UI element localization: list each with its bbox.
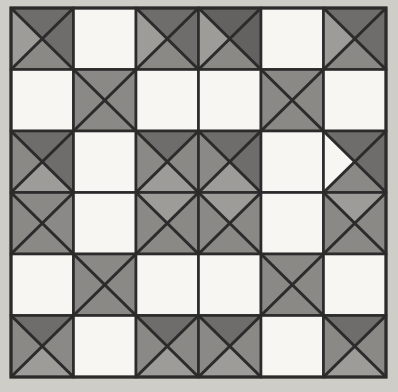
- x-block-cell: [74, 254, 137, 316]
- x-block-cell: [136, 193, 199, 255]
- quilt-grid-svg: [0, 0, 398, 392]
- plain-block-fill: [136, 70, 199, 132]
- x-block-cell: [324, 316, 387, 378]
- plain-block-cell: [261, 193, 324, 255]
- cells-layer: [11, 8, 386, 377]
- quilt-pattern-figure: [0, 0, 398, 392]
- x-block-cell: [74, 70, 137, 132]
- x-block-cell: [324, 193, 387, 255]
- plain-block-fill: [74, 316, 137, 378]
- x-block-cell: [11, 193, 74, 255]
- plain-block-cell: [324, 254, 387, 316]
- x-block-cell: [199, 131, 262, 193]
- x-block-cell: [11, 316, 74, 378]
- plain-block-cell: [74, 193, 137, 255]
- plain-block-fill: [261, 131, 324, 193]
- plain-block-fill: [199, 254, 262, 316]
- plain-block-fill: [74, 193, 137, 255]
- x-block-cell: [199, 193, 262, 255]
- plain-block-fill: [261, 193, 324, 255]
- plain-block-cell: [136, 254, 199, 316]
- plain-block-fill: [324, 70, 387, 132]
- x-block-cell: [136, 131, 199, 193]
- plain-block-cell: [11, 254, 74, 316]
- x-block-cell: [199, 8, 262, 70]
- plain-block-cell: [199, 70, 262, 132]
- plain-block-cell: [261, 8, 324, 70]
- x-block-cell: [261, 70, 324, 132]
- plain-block-fill: [74, 8, 137, 70]
- x-block-cell: [261, 254, 324, 316]
- plain-block-fill: [74, 131, 137, 193]
- x-block-cell: [11, 8, 74, 70]
- plain-block-cell: [74, 316, 137, 378]
- plain-block-fill: [11, 254, 74, 316]
- plain-block-cell: [261, 316, 324, 378]
- plain-block-cell: [136, 70, 199, 132]
- plain-block-fill: [324, 254, 387, 316]
- x-block-cell: [11, 131, 74, 193]
- plain-block-cell: [199, 254, 262, 316]
- plain-block-fill: [261, 8, 324, 70]
- plain-block-cell: [324, 70, 387, 132]
- plain-block-fill: [261, 316, 324, 378]
- x-block-cell: [136, 316, 199, 378]
- x-block-cell: [324, 8, 387, 70]
- plain-block-cell: [74, 131, 137, 193]
- x-block-cell: [199, 316, 262, 378]
- x-block-cell: [136, 8, 199, 70]
- plain-block-fill: [199, 70, 262, 132]
- plain-block-fill: [11, 70, 74, 132]
- plain-block-fill: [136, 254, 199, 316]
- plain-block-cell: [261, 131, 324, 193]
- x-block-cell: [324, 131, 387, 193]
- plain-block-cell: [74, 8, 137, 70]
- plain-block-cell: [11, 70, 74, 132]
